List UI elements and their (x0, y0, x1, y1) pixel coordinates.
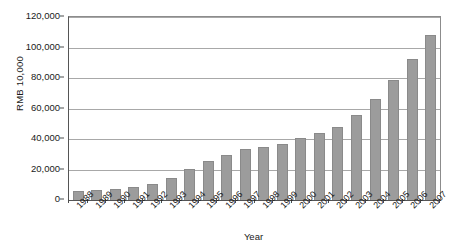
y-axis-tick-label: 120,000 (26, 11, 60, 21)
y-axis-tick-label: 40,000 (31, 133, 60, 143)
bar-chart: RMB 10,000 020,00040,00060,00080,000100,… (0, 0, 453, 247)
y-axis-tick-label: 80,000 (31, 72, 60, 82)
y-axis-tick-mark (60, 77, 64, 78)
plot-area (68, 16, 441, 201)
bar (295, 138, 306, 200)
y-axis-tick-label: 20,000 (31, 164, 60, 174)
bar (425, 35, 436, 200)
y-axis-tick-labels: 020,00040,00060,00080,000100,000120,000 (16, 0, 64, 247)
bar (258, 147, 269, 200)
bar (407, 59, 418, 200)
y-axis-tick-mark (60, 138, 64, 139)
y-axis-tick-mark (60, 46, 64, 47)
y-axis-tick-label: 100,000 (26, 42, 60, 52)
bar (332, 127, 343, 200)
y-axis-tick-mark (60, 199, 64, 200)
bar (351, 115, 362, 200)
y-axis-tick-mark (60, 107, 64, 108)
bar (277, 144, 288, 200)
y-axis-tick-mark (60, 168, 64, 169)
bar (370, 99, 381, 200)
bar (314, 133, 325, 200)
x-axis-title: Year (68, 231, 439, 242)
bars-layer (69, 17, 440, 200)
y-axis-tick-label: 60,000 (31, 103, 60, 113)
x-axis-tick-mark (68, 199, 69, 203)
y-axis-tick-mark (60, 16, 64, 17)
bar (388, 80, 399, 200)
